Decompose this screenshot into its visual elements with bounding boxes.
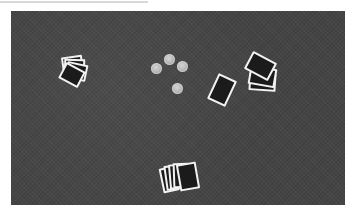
chip bbox=[177, 61, 188, 72]
card bbox=[176, 161, 200, 191]
chip bbox=[164, 54, 175, 65]
top-divider bbox=[0, 1, 148, 3]
card-table bbox=[11, 11, 345, 205]
chip bbox=[151, 63, 162, 74]
card bbox=[207, 73, 237, 107]
chip bbox=[172, 83, 183, 94]
